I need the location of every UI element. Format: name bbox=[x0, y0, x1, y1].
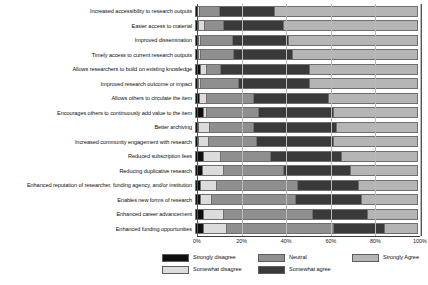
category-label: Better archiving bbox=[0, 124, 195, 130]
bar-segment bbox=[204, 21, 223, 30]
chart-row: Allows others to circulate the item bbox=[0, 91, 428, 106]
bar-segment bbox=[198, 123, 209, 132]
category-label: Improved research outcome or impact bbox=[0, 81, 195, 87]
bar-segment bbox=[211, 195, 295, 204]
legend-entry[interactable]: Somewhat agree bbox=[258, 266, 331, 274]
x-tick-label: 100% bbox=[413, 238, 427, 244]
bar-segment bbox=[333, 137, 417, 146]
stacked-bar bbox=[195, 165, 418, 176]
category-label: Allows researchers to build on existing … bbox=[0, 66, 195, 72]
x-tick-label: 20% bbox=[236, 238, 247, 244]
chart-row: Reduced subscription fees bbox=[0, 149, 428, 164]
bar-segment bbox=[361, 195, 417, 204]
stacked-bar bbox=[195, 180, 418, 191]
legend-entry[interactable]: Strongly Agree bbox=[352, 254, 419, 262]
legend-label: Somewhat disagree bbox=[193, 266, 242, 273]
bar-segment bbox=[350, 166, 417, 175]
chart-row: Increased community engagement with rese… bbox=[0, 135, 428, 150]
chart-row: Enhanced funding opportunities bbox=[0, 222, 428, 237]
bar-segment bbox=[253, 94, 328, 103]
category-label: Enhanced career advancement bbox=[0, 211, 195, 217]
chart-row: Improved research outcome or impact bbox=[0, 77, 428, 92]
bar-segment bbox=[367, 210, 417, 219]
legend-entry[interactable]: Somewhat disagree bbox=[162, 266, 242, 274]
bar-segment bbox=[220, 65, 308, 74]
category-label: Encourages others to continuously add va… bbox=[0, 110, 195, 116]
bar-segment bbox=[258, 108, 333, 117]
legend-entry[interactable]: Strongly disagree bbox=[162, 254, 236, 262]
stacked-bar bbox=[195, 64, 418, 75]
chart-legend: Strongly disagreeSomewhat disagreeNeutra… bbox=[0, 254, 428, 282]
legend-label: Somewhat agree bbox=[289, 266, 331, 273]
bar-segment bbox=[309, 79, 417, 88]
legend-label: Strongly disagree bbox=[193, 254, 236, 261]
legend-swatch bbox=[352, 254, 379, 262]
bar-segment bbox=[196, 210, 203, 219]
x-tick-label: 0% bbox=[193, 238, 201, 244]
chart-row: Enhanced reputation of researcher, fundi… bbox=[0, 178, 428, 193]
bar-segment bbox=[199, 7, 219, 16]
bar-segment bbox=[328, 94, 417, 103]
stacked-bar bbox=[195, 20, 418, 31]
stacked-bar bbox=[195, 223, 418, 234]
legend-swatch bbox=[258, 266, 285, 274]
bar-segment bbox=[253, 123, 336, 132]
bar-segment bbox=[200, 181, 215, 190]
chart-row: Better archiving bbox=[0, 120, 428, 135]
legend-swatch bbox=[258, 254, 285, 262]
category-label: Increased community engagement with rese… bbox=[0, 139, 195, 145]
stacked-bar bbox=[195, 107, 418, 118]
bar-segment bbox=[203, 210, 223, 219]
category-label: Enhanced funding opportunities bbox=[0, 226, 195, 232]
bar-segment bbox=[274, 7, 417, 16]
bar-segment bbox=[206, 94, 252, 103]
bar-segment bbox=[336, 123, 417, 132]
legend-label: Strongly Agree bbox=[383, 254, 419, 261]
bar-segment bbox=[238, 79, 309, 88]
bar-segment bbox=[270, 152, 341, 161]
chart-row: Easier access to material bbox=[0, 19, 428, 34]
category-label: Reducing duplicative research bbox=[0, 168, 195, 174]
chart-row: Enhanced career advancement bbox=[0, 207, 428, 222]
bar-segment bbox=[232, 36, 288, 45]
bar-segment bbox=[333, 224, 384, 233]
bar-segment bbox=[199, 94, 207, 103]
x-tick-label: 80% bbox=[370, 238, 381, 244]
bar-segment bbox=[216, 181, 297, 190]
bar-segment bbox=[333, 108, 417, 117]
bar-segment bbox=[283, 166, 349, 175]
chart-row: Improved dissemination bbox=[0, 33, 428, 48]
legend-entry[interactable]: Neutral bbox=[258, 254, 307, 262]
chart-row: Increased accessibility to research outp… bbox=[0, 4, 428, 19]
chart-row: Encourages others to continuously add va… bbox=[0, 106, 428, 121]
bar-segment bbox=[297, 181, 359, 190]
bar-segment bbox=[200, 79, 238, 88]
stacked-bar bbox=[195, 151, 418, 162]
stacked-bar-chart: Increased accessibility to research outp… bbox=[0, 0, 428, 285]
x-axis: 0%20%40%60%80%100% bbox=[197, 236, 420, 248]
stacked-bar bbox=[195, 6, 418, 17]
bar-segment bbox=[288, 36, 417, 45]
category-label: Reduced subscription fees bbox=[0, 153, 195, 159]
bar-segment bbox=[223, 21, 284, 30]
plot-area: Increased accessibility to research outp… bbox=[0, 4, 428, 236]
legend-swatch bbox=[162, 254, 189, 262]
bar-segment bbox=[256, 137, 333, 146]
bar-segment bbox=[220, 152, 271, 161]
bar-segment bbox=[203, 224, 226, 233]
bar-segment bbox=[292, 50, 417, 59]
bar-segment bbox=[223, 210, 313, 219]
chart-row: Allows researchers to build on existing … bbox=[0, 62, 428, 77]
bar-segment bbox=[198, 137, 208, 146]
bar-segment bbox=[309, 65, 417, 74]
stacked-bar bbox=[195, 49, 418, 60]
bar-segment bbox=[209, 123, 253, 132]
category-label: Allows others to circulate the item bbox=[0, 95, 195, 101]
chart-row: Enables new forms of research bbox=[0, 193, 428, 208]
bar-segment bbox=[283, 21, 417, 30]
category-label: Enhanced reputation of researcher, fundi… bbox=[0, 182, 195, 188]
stacked-bar bbox=[195, 194, 418, 205]
stacked-bar bbox=[195, 122, 418, 133]
bar-segment bbox=[312, 210, 367, 219]
chart-row: Reducing duplicative research bbox=[0, 164, 428, 179]
